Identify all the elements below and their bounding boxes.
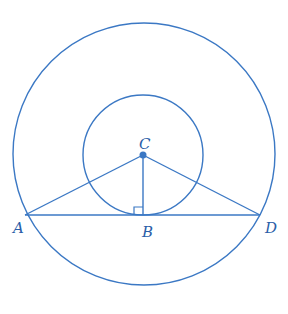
segment-CD [143,155,260,215]
label-D: D [264,219,277,237]
geometry-diagram: C A B D [0,0,288,314]
label-C: C [139,135,151,153]
label-B: B [141,223,153,241]
right-angle-marker [134,207,143,215]
label-A: A [11,219,24,237]
